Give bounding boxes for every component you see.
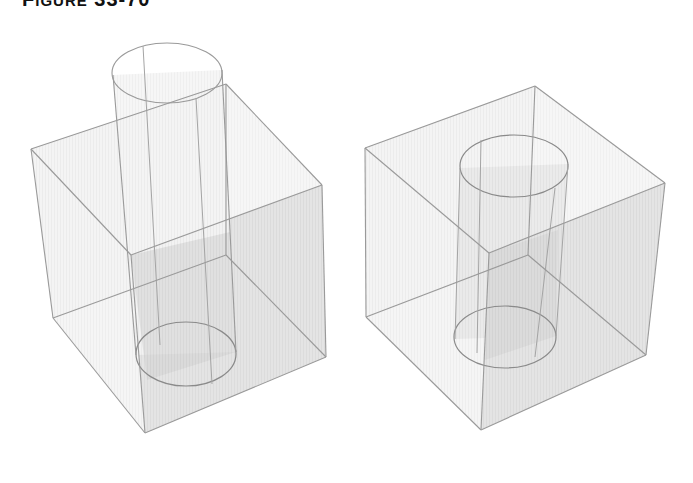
- panel-cube-with-cylinder: [31, 43, 326, 433]
- figure-canvas: [0, 0, 693, 483]
- panel-cube-with-hole: [365, 86, 665, 430]
